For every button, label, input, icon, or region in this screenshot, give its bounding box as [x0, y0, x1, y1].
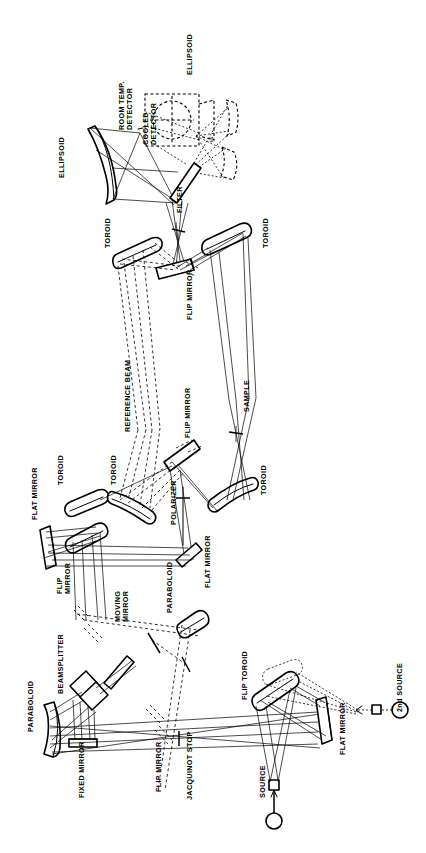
label-flip-mirror-jac: FLIP MIRROR: [155, 742, 163, 792]
label-reference-beam: REFERENCE BEAM: [124, 360, 132, 432]
label-sample: SAMPLE: [243, 380, 251, 412]
label-flip-mirror-sample: FLIP MIRROR: [184, 388, 192, 438]
label-toroid-b: TOROID: [262, 218, 270, 248]
toroid-b-mirror: [202, 223, 252, 255]
toroid-f-mirror: [66, 523, 108, 553]
flat-mirror-a-body: [40, 526, 56, 569]
polarizer-element: [176, 487, 190, 545]
label-source: SOURCE: [259, 765, 267, 798]
label-ellipsoid-right: ELLIPSOID: [186, 34, 194, 75]
toroid-e-mirror: [208, 478, 258, 513]
label-filter: FILTER: [176, 186, 184, 213]
label-flat-mirror-c: FLAT MIRROR: [339, 702, 347, 755]
flip-mirror-bs-body: [74, 606, 102, 642]
label-flip-toroid: FLIP TOROID: [241, 651, 249, 700]
toroid-c-mirror: [65, 490, 109, 517]
beamsplitter-body: [70, 671, 108, 710]
label-flat-mirror-b: FLAT MIRROR: [204, 535, 212, 588]
diagram-canvas: .s{fill:none;stroke:#000;stroke-width:1;…: [0, 0, 426, 853]
label-flat-mirror-a: FLAT MIRROR: [31, 467, 39, 520]
label-room-temp-detector: ROOM TEMP. DETECTOR: [118, 81, 135, 130]
label-toroid-a: TOROID: [104, 218, 112, 248]
label-paraboloid-b: PARABOLOID: [166, 562, 174, 613]
label-f5-marker: f/5: [210, 137, 215, 142]
flip-toroid-body: [252, 660, 302, 711]
optical-schematic-drawing: .s{fill:none;stroke:#000;stroke-width:1;…: [0, 0, 426, 853]
label-second-source: 2nd SOURCE: [396, 663, 404, 712]
label-beamsplitter: BEAMSPLITTER: [57, 634, 65, 694]
flat-mirror-c-body: [316, 697, 332, 744]
compensator-slab: [104, 656, 134, 689]
source-body: [266, 780, 282, 829]
toroid-d-mirror: [108, 491, 156, 524]
label-toroid-e: TOROID: [260, 465, 268, 495]
label-polarizer: POLARIZER: [170, 480, 178, 525]
label-flip-mirror-filter: FLIP MIRROR: [186, 270, 194, 320]
moving-mirror-body: [148, 633, 190, 672]
label-ellipsoid-left: ELLIPSOID: [58, 137, 66, 178]
label-fixed-mirror: FIXED MIRROR: [78, 741, 86, 798]
label-toroid-c: TOROID: [57, 455, 65, 485]
ellipsoid-left-mirror: [88, 126, 117, 204]
label-toroid-d: TOROID: [110, 455, 118, 485]
label-paraboloid-a: PARABOLOID: [27, 681, 35, 732]
label-flip-mirror-bs: FLIP MIRROR: [56, 563, 73, 594]
label-jacquinot-stop: JACQUINOT STOP: [186, 731, 194, 800]
label-cooled-detector: COOLED DETECTOR: [142, 103, 159, 145]
label-moving-mirror: MOVING MIRROR: [114, 591, 131, 622]
paraboloid-b-mirror: [177, 611, 209, 638]
interferometer-section: [44, 656, 408, 829]
